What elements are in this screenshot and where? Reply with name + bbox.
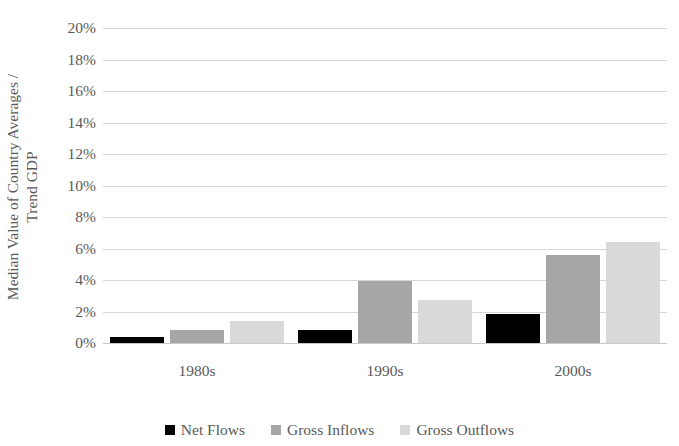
bar-1980s-net-flows[interactable]: [110, 337, 164, 343]
y-tick-label: 6%: [75, 241, 96, 257]
y-tick-label: 2%: [75, 304, 96, 320]
y-axis-tick-labels: 0%2%4%6%8%10%12%14%16%18%20%: [36, 0, 96, 446]
plot-area: [103, 28, 667, 343]
bar-chart-figure: Median Value of Country Averages / Trend…: [0, 0, 679, 446]
chart-legend: Net FlowsGross InflowsGross Outflows: [0, 421, 679, 439]
y-tick-label: 8%: [75, 209, 96, 225]
bar-1990s-gross-inflows[interactable]: [358, 281, 412, 343]
bar-2000s-gross-inflows[interactable]: [546, 255, 600, 343]
y-tick-label: 18%: [68, 52, 96, 68]
bar-1990s-net-flows[interactable]: [298, 330, 352, 343]
legend-item-gross-inflows[interactable]: Gross Inflows: [271, 421, 374, 439]
bar-1990s-gross-outflows[interactable]: [418, 300, 472, 343]
legend-swatch-net-flows: [165, 425, 175, 435]
y-tick-label: 20%: [68, 20, 96, 36]
chart-title: [200, 0, 520, 3]
y-tick-label: 10%: [68, 178, 96, 194]
gridline-0%: [103, 343, 667, 344]
bar-2000s-gross-outflows[interactable]: [606, 242, 660, 343]
x-tick-label-1990s: 1990s: [291, 362, 479, 380]
y-tick-label: 0%: [75, 335, 96, 351]
bar-group-1990s: [291, 28, 479, 343]
legend-swatch-gross-inflows: [271, 425, 281, 435]
x-axis-tick-labels: 1980s1990s2000s: [103, 362, 667, 388]
bar-1980s-gross-outflows[interactable]: [230, 321, 284, 343]
legend-label-net-flows: Net Flows: [181, 421, 245, 439]
bar-2000s-net-flows[interactable]: [486, 314, 540, 343]
bar-group-1980s: [103, 28, 291, 343]
legend-label-gross-outflows: Gross Outflows: [416, 421, 514, 439]
bar-group-2000s: [479, 28, 667, 343]
y-tick-label: 16%: [68, 83, 96, 99]
y-tick-label: 14%: [68, 115, 96, 131]
legend-item-gross-outflows[interactable]: Gross Outflows: [400, 421, 514, 439]
x-tick-label-2000s: 2000s: [479, 362, 667, 380]
y-tick-label: 4%: [75, 272, 96, 288]
legend-label-gross-inflows: Gross Inflows: [287, 421, 374, 439]
legend-swatch-gross-outflows: [400, 425, 410, 435]
y-tick-label: 12%: [68, 146, 96, 162]
legend-item-net-flows[interactable]: Net Flows: [165, 421, 245, 439]
bar-1980s-gross-inflows[interactable]: [170, 330, 224, 343]
x-tick-label-1980s: 1980s: [103, 362, 291, 380]
